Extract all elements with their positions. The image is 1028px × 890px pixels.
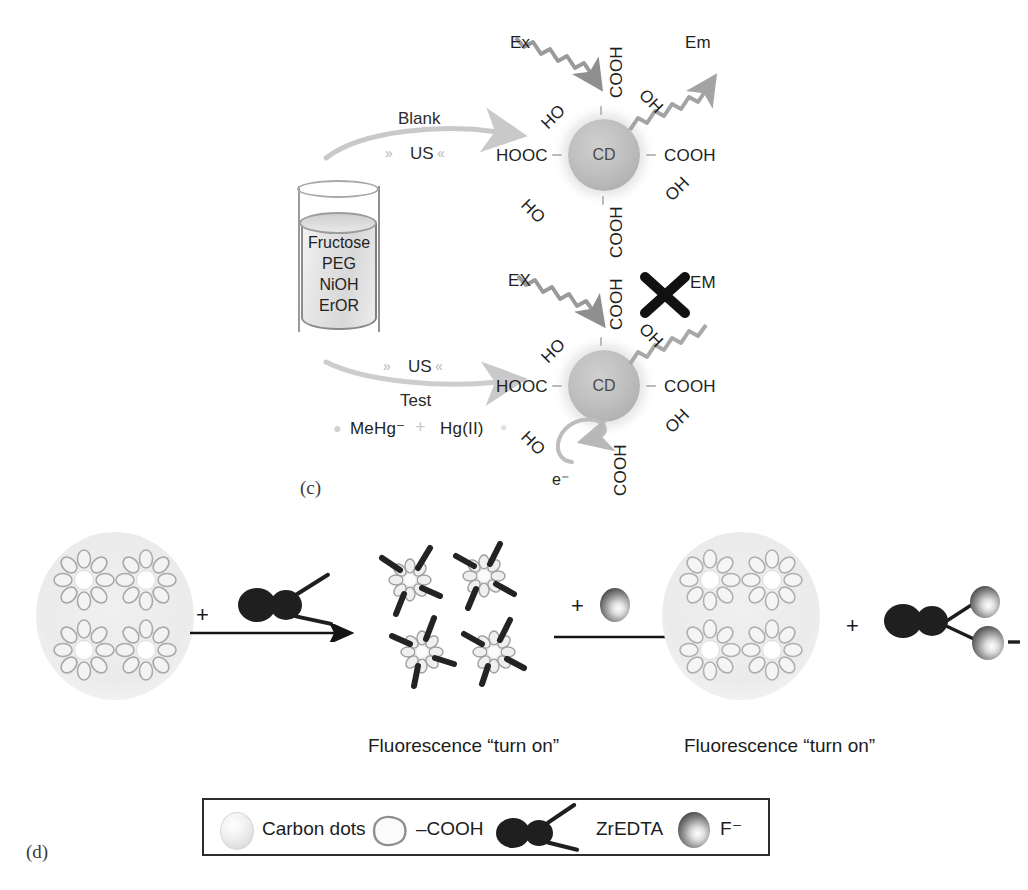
cd-bottom-group-left: HOOC: [496, 378, 548, 395]
zredta-leg-upper: [293, 572, 331, 598]
beaker-content-3: ErOR: [319, 298, 359, 315]
reagent-beaker: Fructose PEG NiOH ErOR: [292, 186, 388, 338]
carbon-dot-quenched: CD EX EM: [490, 258, 750, 508]
caption-turn-on-2: Fluorescence “turn on”: [684, 736, 875, 755]
analyte-separator-plus: +: [415, 418, 426, 436]
analyte-mehg-label: MeHg⁻: [350, 420, 405, 437]
product-fluoride-upper: [970, 586, 1000, 618]
panel-d-label: (d): [26, 842, 48, 861]
legend-label-cooh: –COOH: [416, 819, 484, 838]
cd-bottom-group-right: COOH: [664, 378, 716, 395]
cd-top-group-top: COOH: [608, 46, 625, 98]
panel-c-label: (c): [300, 478, 321, 497]
cd-top-tick-right: [646, 154, 656, 156]
product-fluoride-lower: [972, 626, 1004, 660]
symbol-legend: Carbon dots –COOH ZrEDTA F⁻: [202, 798, 770, 856]
cd-top-group-bottom: COOH: [608, 206, 625, 258]
cd-bottom-group-bottom: COOH: [612, 444, 629, 496]
beaker-contents-list: Fructose PEG NiOH ErOR: [296, 232, 382, 318]
legend-glyph-carbon-dots: [220, 812, 254, 850]
plus-sign-1: +: [196, 604, 209, 626]
analyte-dot-left-icon: ●: [333, 421, 341, 435]
carbon-dot-cluster-1: [36, 532, 194, 700]
legend-zredta-leg-upper: [545, 802, 577, 825]
test-route-sonication-right-icon: «: [435, 359, 443, 373]
emission-wave-top: [620, 32, 730, 137]
cd-core-label-bottom: CD: [592, 377, 615, 395]
product-zredta-fluoride: [884, 582, 1028, 666]
dots-zredta-cluster: [366, 540, 536, 700]
state-dots-bound-zredta: [366, 540, 536, 700]
cd-top-group-left: HOOC: [496, 147, 548, 164]
legend-label-carbon-dots: Carbon dots: [262, 819, 366, 838]
legend-glyph-cooh: [368, 812, 410, 850]
plus-sign-3: +: [846, 615, 859, 637]
state-aggregated-carbon-dots: [36, 532, 194, 700]
cd-top-group-lower-right: OH: [662, 174, 692, 204]
emission-label-bottom: EM: [690, 274, 716, 291]
carbon-dot-fluorescent: CD Ex: [490, 20, 750, 260]
blank-route-sonication-left-icon: »: [385, 146, 393, 160]
cd-core-label-top: CD: [592, 146, 615, 164]
cd-bottom-group-lower-right: OH: [662, 406, 692, 436]
legend-zredta-leg-lower: [546, 840, 580, 852]
cd-top-tick-bottom: [602, 196, 604, 205]
beaker-content-0: Fructose: [308, 235, 370, 252]
test-route-label: Test: [400, 392, 431, 409]
beaker-rim: [297, 180, 379, 198]
legend-label-fluoride: F⁻: [720, 819, 742, 838]
beaker-content-2: NiOH: [319, 277, 358, 294]
cd-top-group-lower-left: HO: [518, 196, 548, 226]
carbon-dot-cluster-2: [662, 532, 820, 700]
emission-blocked-x-icon: [638, 268, 692, 322]
emission-label-top: Em: [685, 34, 711, 51]
cd-top-tick-left: [552, 154, 562, 156]
cd-bottom-tick-left: [552, 385, 562, 387]
excitation-label-top: Ex: [510, 34, 530, 51]
plus-sign-2: +: [571, 595, 584, 617]
legend-glyph-fluoride: [678, 812, 710, 848]
analyte-hg2-label: Hg(II): [440, 420, 484, 437]
state-dots-released: [662, 532, 820, 700]
cd-bottom-tick-right: [646, 385, 656, 387]
reaction-arrow-1: [188, 624, 358, 642]
cd-top-group-right: COOH: [664, 147, 716, 164]
blank-route-us-label: US: [410, 145, 434, 162]
figure-root: (c) Fructose PEG NiOH ErOR: [0, 0, 1028, 890]
blank-route-label: Blank: [398, 110, 441, 127]
reagent-fluoride: [600, 588, 630, 622]
cd-bottom-group-top: COOH: [608, 278, 625, 330]
test-route-sonication-left-icon: »: [383, 359, 391, 373]
beaker-content-1: PEG: [322, 256, 356, 273]
caption-turn-on-1: Fluorescence “turn on”: [368, 736, 559, 755]
electron-label: e⁻: [552, 472, 569, 488]
legend-glyph-zredta: [496, 808, 592, 852]
beaker-liquid-surface: [299, 212, 377, 234]
reagent-zredta: [238, 578, 348, 628]
panel-c: (c) Fructose PEG NiOH ErOR: [0, 0, 1028, 520]
product-zredta-lobe-right: [916, 606, 948, 636]
legend-label-zredta: ZrEDTA: [596, 819, 663, 838]
panel-d: (d): [0, 520, 1028, 890]
excitation-label-bottom: EX: [508, 272, 531, 289]
test-route-us-label: US: [408, 358, 432, 375]
blank-route-sonication-right-icon: «: [437, 146, 445, 160]
